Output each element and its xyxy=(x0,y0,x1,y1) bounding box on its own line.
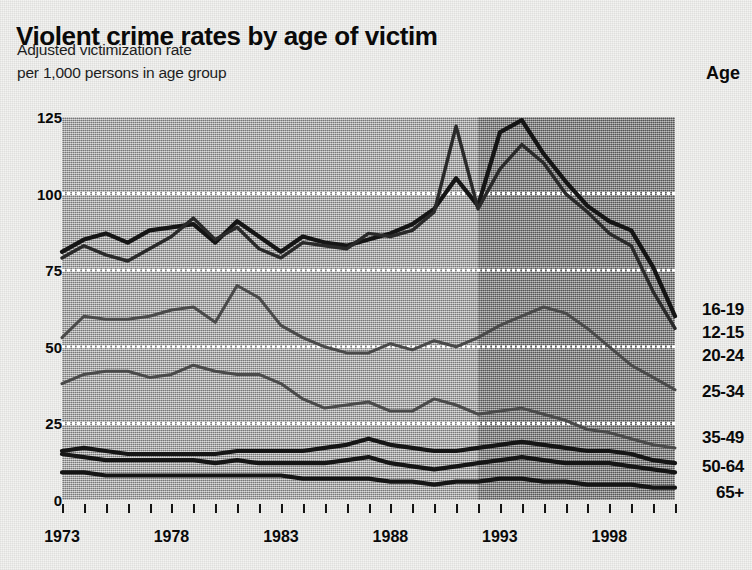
series-line-12-15 xyxy=(62,126,675,328)
x-axis-tick xyxy=(369,504,371,513)
series-line-20-24 xyxy=(62,286,675,390)
x-axis-tick xyxy=(390,504,392,513)
x-axis-tick xyxy=(587,504,589,513)
y-axis-tick-label: 75 xyxy=(16,263,62,278)
x-axis-tick xyxy=(215,504,217,513)
x-axis-tick xyxy=(325,504,327,513)
x-axis-tick xyxy=(347,504,349,513)
x-axis-tick xyxy=(303,504,305,513)
x-axis-tick xyxy=(434,504,436,513)
y-axis-tick-label: 100 xyxy=(16,187,62,202)
legend-item-12-15: 12-15 xyxy=(702,323,744,343)
legend-header: Age xyxy=(706,63,740,84)
y-axis-tick-label: 50 xyxy=(16,340,62,355)
x-axis-tick xyxy=(675,504,677,513)
x-axis-tick xyxy=(412,504,414,513)
series-line-65+ xyxy=(62,472,675,487)
y-axis-tick-label: 0 xyxy=(16,493,62,508)
legend-item-35-49: 35-49 xyxy=(702,428,744,448)
x-axis-tick-label: 1993 xyxy=(482,528,518,546)
chart-lines xyxy=(62,117,675,500)
x-axis-tick xyxy=(128,504,130,513)
x-axis-tick xyxy=(171,504,173,513)
plot-area xyxy=(62,117,675,500)
x-axis-tick xyxy=(456,504,458,513)
legend-item-25-34: 25-34 xyxy=(702,382,744,402)
x-axis-tick xyxy=(631,504,633,513)
x-axis-tick xyxy=(237,504,239,513)
x-axis-tick xyxy=(544,504,546,513)
legend-item-20-24: 20-24 xyxy=(702,346,744,366)
x-axis-tick-label: 1988 xyxy=(373,528,409,546)
x-axis-tick xyxy=(566,504,568,513)
x-axis-tick xyxy=(478,504,480,513)
x-axis-tick-label: 1983 xyxy=(263,528,299,546)
x-axis-tick-label: 1978 xyxy=(154,528,190,546)
y-axis-tick-label: 25 xyxy=(16,416,62,431)
chart-subtitle-line-1: Adjusted victimization rate xyxy=(17,41,192,59)
x-axis-tick xyxy=(62,504,64,513)
x-axis-tick xyxy=(84,504,86,513)
series-line-25-34 xyxy=(62,365,675,448)
x-axis-tick xyxy=(106,504,108,513)
series-line-16-19 xyxy=(62,120,675,316)
chart-subtitle-line-2: per 1,000 persons in age group xyxy=(17,64,226,82)
x-axis-tick xyxy=(259,504,261,513)
x-axis-tick xyxy=(609,504,611,513)
x-axis-tick xyxy=(522,504,524,513)
x-axis-tick xyxy=(193,504,195,513)
x-axis-tick xyxy=(150,504,152,513)
y-axis-tick-label: 125 xyxy=(16,110,62,125)
series-line-50-64 xyxy=(62,454,675,472)
x-axis-tick xyxy=(653,504,655,513)
x-axis-tick-label: 1998 xyxy=(592,528,628,546)
legend-item-65+: 65+ xyxy=(716,483,744,503)
x-axis-tick xyxy=(281,504,283,513)
x-axis-tick-label: 1973 xyxy=(44,528,80,546)
legend-item-16-19: 16-19 xyxy=(702,300,744,320)
legend-item-50-64: 50-64 xyxy=(702,457,744,477)
chart-page: Violent crime rates by age of victim Adj… xyxy=(0,0,752,570)
x-axis-tick xyxy=(500,504,502,513)
